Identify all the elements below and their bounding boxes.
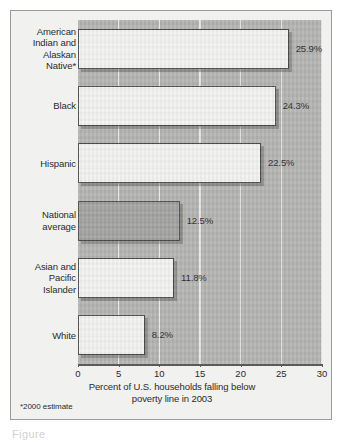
x-axis-title-line: poverty line in 2003 [31,393,313,405]
plot-area: 25.9%24.3%22.5%12.5%11.8%8.2% [78,20,322,364]
category-label: Black [11,100,76,112]
x-tick-label: 5 [107,368,131,379]
x-axis-title-line: Percent of U.S. households falling below [31,381,313,393]
gridline-10 [159,20,161,364]
x-tick-label: 15 [188,368,212,379]
x-tick-label: 0 [66,368,90,379]
gridline-20 [240,20,242,364]
category-label-line: National [11,209,76,221]
category-label-line: Alaskan [11,49,76,61]
category-label-line: Pacific [11,272,76,284]
category-label-line: Black [11,100,76,112]
x-tick-15 [200,364,201,367]
category-label-line: Asian and [11,261,76,273]
figure-caption: Figure [12,428,46,440]
x-tick-label: 10 [147,368,171,379]
x-tick-label: 20 [229,368,253,379]
bar [78,29,289,69]
footnote: *2000 estimate [20,402,73,411]
x-axis-title: Percent of U.S. households falling below… [31,381,313,404]
bar [78,201,180,241]
bar-value-label: 24.3% [283,100,309,111]
bar-value-label: 8.2% [152,329,173,340]
x-tick-25 [281,364,282,367]
bar [78,143,261,183]
bar [78,258,174,298]
category-label: Asian andPacificIslander [11,261,76,296]
category-label: White [11,330,76,342]
x-tick-5 [119,364,120,367]
gridline-5 [118,20,120,364]
bar [78,86,276,126]
bar-value-label: 22.5% [268,157,294,168]
category-label-line: Islander [11,284,76,296]
figure-frame: AmericanIndian andAlaskanNative*BlackHis… [10,10,332,420]
gridline-15 [199,20,201,364]
category-label-line: Indian and [11,37,76,49]
category-label-line: White [11,330,76,342]
category-label-line: Native* [11,60,76,72]
category-label-line: Hispanic [11,158,76,170]
gridline-30 [321,20,323,364]
bar-value-label: 11.8% [181,272,207,283]
x-tick-30 [322,364,323,367]
category-label-line: American [11,26,76,38]
x-tick-10 [159,364,160,367]
bar-value-label: 12.5% [187,215,213,226]
x-tick-label: 30 [310,368,334,379]
category-axis: AmericanIndian andAlaskanNative*BlackHis… [11,20,78,364]
category-label: Nationalaverage [11,209,76,232]
category-label: AmericanIndian andAlaskanNative* [11,26,76,72]
category-label-line: average [11,221,76,233]
bar-value-label: 25.9% [296,43,322,54]
x-tick-0 [78,364,79,367]
category-label: Hispanic [11,158,76,170]
x-tick-20 [241,364,242,367]
bar [78,315,145,355]
x-tick-label: 25 [269,368,293,379]
gridline-25 [281,20,283,364]
